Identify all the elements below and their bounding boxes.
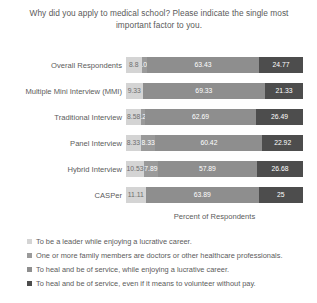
legend-label: One or more family members are doctors o… bbox=[36, 251, 282, 260]
legend-swatch-icon bbox=[27, 267, 32, 272]
legend-item: To heal and be of service, while enjoyin… bbox=[27, 262, 317, 276]
bar-row: Hybrid Interview10.537.8957.8926.68 bbox=[0, 156, 317, 182]
bar-segment: 9.33 bbox=[126, 83, 143, 99]
legend-swatch-icon bbox=[27, 239, 32, 244]
legend-item: To heal and be of service, even if it me… bbox=[27, 276, 317, 290]
category-label: Hybrid Interview bbox=[0, 165, 126, 174]
bar-segment: 7.89 bbox=[144, 161, 158, 177]
bar-track: 10.537.8957.8926.68 bbox=[126, 161, 303, 177]
bar-segment: 21.33 bbox=[265, 83, 303, 99]
bar-track: 11.11063.8925 bbox=[126, 187, 303, 203]
category-label: Overall Respondents bbox=[0, 61, 126, 70]
bar-segment: 26.49 bbox=[256, 109, 303, 125]
bar-row: Traditional Interview8.582.2462.6926.49 bbox=[0, 104, 317, 130]
bar-segment: 8.8 bbox=[126, 57, 142, 73]
bar-row: Overall Respondents8.83.0163.4324.77 bbox=[0, 52, 317, 78]
bar-segment: 25 bbox=[259, 187, 303, 203]
bar-track: 8.338.3360.4222.92 bbox=[126, 135, 303, 151]
bar-segment: 63.43 bbox=[147, 57, 259, 73]
bar-segment: 8.33 bbox=[126, 135, 141, 151]
bar-segment: 69.33 bbox=[143, 83, 266, 99]
legend-label: To be a leader while enjoying a lucrativ… bbox=[36, 237, 192, 246]
category-label: CASPer bbox=[0, 191, 126, 200]
bar-row: Multiple Mini Interview (MMI)9.33069.332… bbox=[0, 78, 317, 104]
legend-label: To heal and be of service, even if it me… bbox=[36, 279, 256, 288]
bar-segment: 11.11 bbox=[126, 187, 146, 203]
stacked-bar-chart: Why did you apply to medical school? Ple… bbox=[0, 0, 317, 303]
bar-row: Panel Interview8.338.3360.4222.92 bbox=[0, 130, 317, 156]
legend-swatch-icon bbox=[27, 281, 32, 286]
category-label: Traditional Interview bbox=[0, 113, 126, 122]
bar-segment: 26.68 bbox=[257, 161, 303, 177]
bar-track: 8.582.2462.6926.49 bbox=[126, 109, 303, 125]
legend-item: One or more family members are doctors o… bbox=[27, 248, 317, 262]
bar-segment: 63.89 bbox=[146, 187, 259, 203]
bar-row: CASPer11.11063.8925 bbox=[0, 182, 317, 208]
bar-track: 8.83.0163.4324.77 bbox=[126, 57, 303, 73]
x-axis-label: Percent of Respondents bbox=[126, 212, 303, 221]
bar-segment: 8.58 bbox=[126, 109, 141, 125]
legend-item: To be a leader while enjoying a lucrativ… bbox=[27, 234, 317, 248]
bar-segment: 8.33 bbox=[141, 135, 156, 151]
bar-segment: 60.42 bbox=[155, 135, 262, 151]
legend-label: To heal and be of service, while enjoyin… bbox=[36, 265, 229, 274]
chart-title: Why did you apply to medical school? Ple… bbox=[24, 7, 294, 31]
bar-segment: 62.69 bbox=[145, 109, 256, 125]
bar-segment: 10.53 bbox=[126, 161, 144, 177]
category-label: Panel Interview bbox=[0, 139, 126, 148]
bar-segment: 57.89 bbox=[158, 161, 257, 177]
bar-segment: 24.77 bbox=[259, 57, 303, 73]
bar-segment: 22.92 bbox=[262, 135, 303, 151]
legend-swatch-icon bbox=[27, 253, 32, 258]
category-label: Multiple Mini Interview (MMI) bbox=[0, 87, 126, 96]
bar-track: 9.33069.3321.33 bbox=[126, 83, 303, 99]
chart-legend: To be a leader while enjoying a lucrativ… bbox=[27, 234, 317, 290]
plot-area: Overall Respondents8.83.0163.4324.77Mult… bbox=[0, 52, 317, 207]
